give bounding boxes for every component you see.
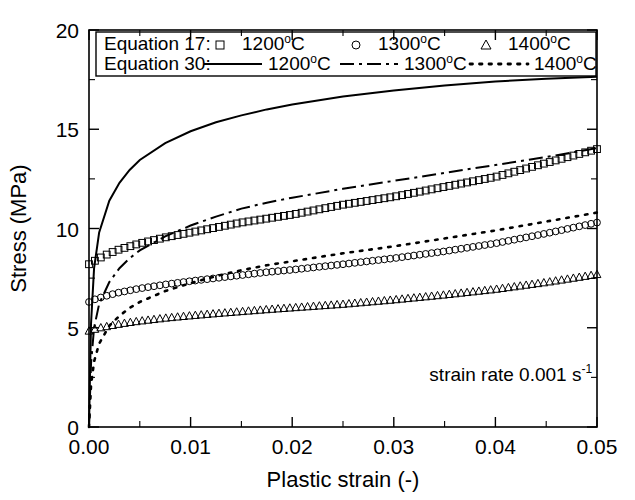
legend-eq30-1300-unit: C bbox=[453, 53, 467, 74]
y-tick-label: 15 bbox=[56, 118, 79, 141]
legend-marker-circle bbox=[352, 41, 360, 49]
legend-row2-label: Equation 30: bbox=[104, 53, 211, 74]
y-axis-label: Stress (MPa) bbox=[6, 164, 31, 292]
legend-eq30-1300-temp: 1300 bbox=[404, 53, 446, 74]
annotation-strain-rate-exponent: -1 bbox=[581, 362, 592, 376]
legend-marker-square bbox=[216, 41, 224, 49]
series-markers-1400-eq17 bbox=[85, 270, 601, 334]
legend-eq17-1400-unit: C bbox=[557, 33, 571, 54]
chart-figure: 0.000.010.020.030.040.0505101520Plastic … bbox=[0, 0, 635, 500]
legend-eq30-1200-temp: 1200 bbox=[268, 53, 310, 74]
x-tick-label: 0.01 bbox=[170, 435, 211, 458]
y-tick-label: 5 bbox=[67, 317, 79, 340]
legend-marker-triangle bbox=[481, 40, 491, 49]
legend-eq30-1200-unit: C bbox=[317, 53, 331, 74]
series-markers-1200-eq17 bbox=[86, 146, 601, 268]
legend-eq17-1200-unit: C bbox=[291, 33, 305, 54]
y-tick-label: 0 bbox=[67, 416, 79, 439]
legend-eq17-1400-temp: 1400 bbox=[508, 33, 550, 54]
legend-eq17-1300-temp: 1300 bbox=[378, 33, 420, 54]
annotation-strain-rate: strain rate 0.001 s bbox=[429, 364, 581, 385]
y-tick-label: 20 bbox=[56, 19, 79, 42]
legend-eq30-1400-unit: C bbox=[583, 53, 597, 74]
x-axis-label: Plastic strain (-) bbox=[267, 467, 420, 492]
x-tick-label: 0.05 bbox=[577, 435, 618, 458]
legend-eq30-1400-temp: 1400 bbox=[534, 53, 576, 74]
stress-strain-plot: 0.000.010.020.030.040.0505101520Plastic … bbox=[0, 0, 635, 500]
y-tick-label: 10 bbox=[56, 218, 79, 241]
x-tick-label: 0.03 bbox=[373, 435, 414, 458]
x-tick-label: 0.02 bbox=[272, 435, 313, 458]
series-line-1400-eq30 bbox=[89, 213, 597, 427]
legend-eq17-1300-unit: C bbox=[427, 33, 441, 54]
x-tick-label: 0.04 bbox=[475, 435, 516, 458]
legend-row1-label: Equation 17: bbox=[104, 33, 211, 54]
legend-eq17-1200-temp: 1200 bbox=[242, 33, 284, 54]
series-markers-1300-eq17 bbox=[86, 219, 601, 305]
